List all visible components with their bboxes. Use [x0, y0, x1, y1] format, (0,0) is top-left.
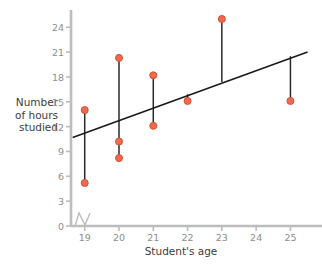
y-tick-label: 9	[38, 146, 64, 157]
trend-line	[73, 52, 308, 137]
x-tick-label: 22	[182, 232, 194, 243]
data-point	[116, 138, 123, 145]
data-point	[218, 15, 225, 22]
x-tick-label: 21	[147, 232, 159, 243]
data-point	[150, 122, 157, 129]
x-tick-label: 20	[113, 232, 125, 243]
data-point	[287, 97, 294, 104]
y-tick-label: 21	[38, 47, 64, 58]
x-axis-title: Student's age	[0, 245, 322, 257]
y-tick-label: 3	[38, 196, 64, 207]
axis-break-mark	[75, 213, 90, 226]
y-tick-label: 24	[38, 22, 64, 33]
x-tick-label: 24	[250, 232, 262, 243]
y-axis-title-line-2: of hours	[0, 109, 58, 122]
data-point	[81, 107, 88, 114]
scatter-plot-chart: Number of hours studied Student's age 03…	[0, 0, 322, 268]
x-tick-label: 23	[216, 232, 228, 243]
x-tick-label: 25	[284, 232, 296, 243]
y-tick-label: 12	[38, 121, 64, 132]
data-point	[81, 179, 88, 186]
data-point	[184, 97, 191, 104]
y-tick-label: 18	[38, 71, 64, 82]
y-tick-label: 6	[38, 171, 64, 182]
data-point	[116, 155, 123, 162]
data-point	[150, 72, 157, 79]
y-tick-label: 15	[38, 96, 64, 107]
y-tick-label: 0	[38, 221, 64, 232]
data-point	[116, 54, 123, 61]
x-tick-label: 19	[79, 232, 91, 243]
